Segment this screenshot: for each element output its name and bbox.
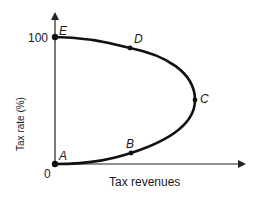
origin-tick-label: 0 — [44, 167, 51, 181]
laffer-curve — [55, 37, 195, 164]
point-e-label: E — [59, 24, 68, 38]
point-b-marker — [129, 151, 134, 156]
y-max-tick-label: 100 — [28, 31, 48, 45]
x-axis-title: Tax revenues — [109, 175, 180, 189]
y-axis-title: Tax rate (%) — [15, 97, 26, 151]
point-a-marker — [52, 161, 58, 167]
point-d-label: D — [134, 32, 143, 46]
point-d-marker — [128, 46, 133, 51]
laffer-curve-diagram: A B C D E 100 0 Tax revenues Tax rate (%… — [0, 0, 255, 197]
point-c-marker — [193, 98, 198, 103]
point-e-marker — [52, 34, 58, 40]
point-a-label: A — [58, 149, 67, 163]
point-b-label: B — [126, 137, 134, 151]
point-c-label: C — [200, 92, 209, 106]
